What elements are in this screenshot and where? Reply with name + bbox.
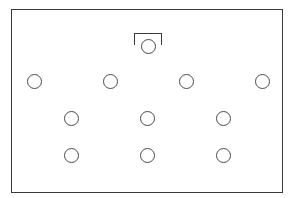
row-2-player-marker: [64, 111, 79, 126]
row-3-player-marker: [64, 148, 79, 163]
row-1-player-marker: [103, 74, 118, 89]
row-1-player-marker: [27, 74, 42, 89]
row-2-player-marker: [140, 111, 155, 126]
row-1-player-marker: [255, 74, 270, 89]
row-3-player-marker: [216, 148, 231, 163]
goalkeeper-marker: [141, 39, 156, 54]
row-2-player-marker: [216, 111, 231, 126]
row-1-player-marker: [179, 74, 194, 89]
row-3-player-marker: [140, 148, 155, 163]
